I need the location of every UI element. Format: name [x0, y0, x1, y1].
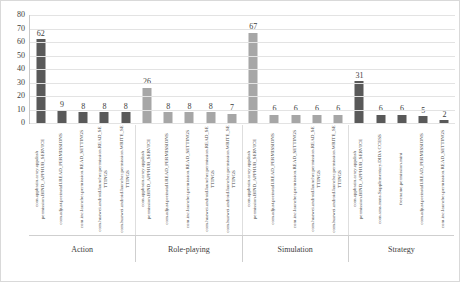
x-axis-category-text: com.huawei.android.launcher.permission.R…	[204, 125, 215, 233]
y-axis-tick-0: 0	[21, 119, 25, 127]
bar[interactable]	[206, 112, 215, 123]
x-axis-category-text: com.appbrain.array.appdash permission.BI…	[140, 125, 151, 233]
x-axis-category-label: com.huawei.android.launcher.permission.W…	[114, 125, 135, 235]
x-axis-category-label: com.inc.launcher.permission.READ_SETTING…	[72, 125, 93, 235]
group-label-cell: Action	[29, 236, 135, 262]
y-axis-tick-80: 80	[17, 11, 25, 19]
bar-value-label: 67	[249, 23, 257, 31]
x-axis-category-label: com.huawei.android.launcher.permission.R…	[305, 125, 326, 235]
bar[interactable]	[355, 81, 364, 123]
bar[interactable]	[419, 116, 428, 123]
group-labels-band: ActionRole-playingSimulationStrategy	[29, 235, 454, 262]
group-label-text: Simulation	[278, 245, 313, 254]
bar[interactable]	[376, 115, 385, 123]
bar-value-label: 31	[355, 72, 363, 80]
gridline-40	[30, 69, 455, 70]
x-axis-category-text: com.appbrain.array.appdash permission.BI…	[353, 125, 364, 233]
x-axis-category-text: com.huawei.android.launcher.permission.R…	[310, 125, 321, 233]
x-axis-category-text: com.huawei.android.launcher.permission.W…	[332, 125, 343, 233]
x-axis-category-label: com.huawei.android.launcher.permission.W…	[220, 125, 241, 235]
y-axis-tick-60: 60	[17, 38, 25, 46]
x-axis-category-text: com.inc.launcher.permission.READ_SETTING…	[79, 125, 85, 233]
bar[interactable]	[227, 114, 236, 123]
bar[interactable]	[57, 111, 66, 123]
y-axis-tick-30: 30	[17, 79, 25, 87]
bar[interactable]	[142, 88, 151, 123]
gridline-0	[30, 123, 455, 124]
x-axis-category-text: com.inc.launcher.permission.READ_SETTING…	[441, 125, 447, 233]
x-axis-category-label: com.huawei.android.launcher.permission.W…	[327, 125, 348, 235]
bar[interactable]	[100, 112, 109, 123]
y-axis: 01020304050607080	[1, 15, 28, 123]
group-separator	[242, 125, 243, 235]
x-axis-category-label: com.appbrain.array.appdash permission.BI…	[135, 125, 156, 235]
x-axis-category-label: com.appbrain.array.appdash permission.BI…	[29, 125, 50, 235]
bar[interactable]	[291, 115, 300, 123]
gridline-20	[30, 96, 455, 97]
x-axis-category-label: com.huawei.android.launcher.permission.R…	[93, 125, 114, 235]
y-axis-tick-50: 50	[17, 52, 25, 60]
bar[interactable]	[270, 115, 279, 123]
group-label-text: Strategy	[388, 245, 415, 254]
gridline-50	[30, 56, 455, 57]
gridline-60	[30, 42, 455, 43]
bar-value-label: 62	[37, 30, 45, 38]
x-axis-category-label: com.adjust.preinstall.READ_PERMISSIONS	[157, 125, 178, 235]
x-axis-category-text: com.appbrain.array.appdash permission.BI…	[247, 125, 258, 233]
x-axis-category-text: com.adjust.preinstall.READ_PERMISSIONS	[164, 125, 170, 233]
x-axis-category-text: com.huawei.android.launcher.permission.W…	[225, 125, 236, 233]
bar-chart: 01020304050607080 6298882688876766663166…	[0, 0, 460, 282]
x-axis-category-label: com.inc.launcher.permission.READ_SETTING…	[178, 125, 199, 235]
gridline-30	[30, 83, 455, 84]
y-axis-tick-20: 20	[17, 92, 25, 100]
x-axis-category-label: com.inc.launcher.permission.READ_SETTING…	[284, 125, 305, 235]
bar[interactable]	[121, 112, 130, 123]
gridline-80	[30, 15, 455, 16]
group-label-cell: Role-playing	[135, 236, 241, 262]
x-axis-category-text: com.huawei.android.launcher.permission.R…	[98, 125, 109, 233]
bar-value-label: 7	[230, 104, 234, 112]
bar[interactable]	[164, 112, 173, 123]
x-axis-category-label: com.sms.mms.Supplementary.DIDA CCESS	[369, 125, 390, 235]
plot-area: 629888268887676666316652	[29, 15, 455, 124]
x-axis-category-label: com.appbrain.array.appdash permission.BI…	[242, 125, 263, 235]
x-axis-category-label: com.inc.launcher.permission.READ_SETTING…	[433, 125, 454, 235]
x-axis-category-text: com.adjust.preinstall.READ_PERMISSIONS	[58, 125, 64, 233]
x-axis-category-text: com.huawei.android.launcher.permission.W…	[119, 125, 130, 233]
x-axis-category-label: com.adjust.preinstall.READ_PERMISSIONS	[50, 125, 71, 235]
x-axis-category-text: com.appbrain.array.appdash permission.BI…	[34, 125, 45, 233]
bar-value-label: 9	[60, 101, 64, 109]
bar[interactable]	[397, 115, 406, 123]
gridline-10	[30, 110, 455, 111]
x-axis-category-label: com.adjust.preinstall.READ_PERMISSIONS	[263, 125, 284, 235]
y-axis-tick-10: 10	[17, 106, 25, 114]
y-axis-tick-40: 40	[17, 65, 25, 73]
chart-plot-wrapper: 01020304050607080 6298882688876766663166…	[1, 1, 460, 282]
y-axis-tick-70: 70	[17, 25, 25, 33]
x-axis-category-text: com.adjust.preinstall.READ_PERMISSIONS	[271, 125, 277, 233]
bar-value-label: 2	[442, 111, 446, 119]
group-label-text: Action	[71, 245, 93, 254]
x-axis-category-text: freename.permission.mini	[398, 125, 404, 233]
x-axis-category-label: com.huawei.android.launcher.permission.R…	[199, 125, 220, 235]
group-separator	[135, 125, 136, 235]
x-axis-category-label: com.appbrain.array.appdash permission.BI…	[348, 125, 369, 235]
group-label-cell: Strategy	[348, 236, 454, 262]
group-label-text: Role-playing	[168, 245, 210, 254]
bar-value-label: 5	[421, 107, 425, 115]
x-axis-category-text: com.sms.mms.Supplementary.DIDA CCESS	[377, 125, 383, 233]
x-axis-category-text: com.inc.launcher.permission.READ_SETTING…	[292, 125, 298, 233]
x-axis-category-text: com.inc.launcher.permission.READ_SETTING…	[186, 125, 192, 233]
bar[interactable]	[185, 112, 194, 123]
bar[interactable]	[79, 112, 88, 123]
x-axis-category-label: freename.permission.mini	[390, 125, 411, 235]
x-axis-category-text: com.adjust.preinstall.READ_PERMISSIONS	[419, 125, 425, 233]
bar[interactable]	[312, 115, 321, 123]
group-separator	[348, 125, 349, 235]
gridline-70	[30, 29, 455, 30]
group-label-cell: Simulation	[242, 236, 348, 262]
bar[interactable]	[334, 115, 343, 123]
x-axis-category-label: com.adjust.preinstall.READ_PERMISSIONS	[412, 125, 433, 235]
